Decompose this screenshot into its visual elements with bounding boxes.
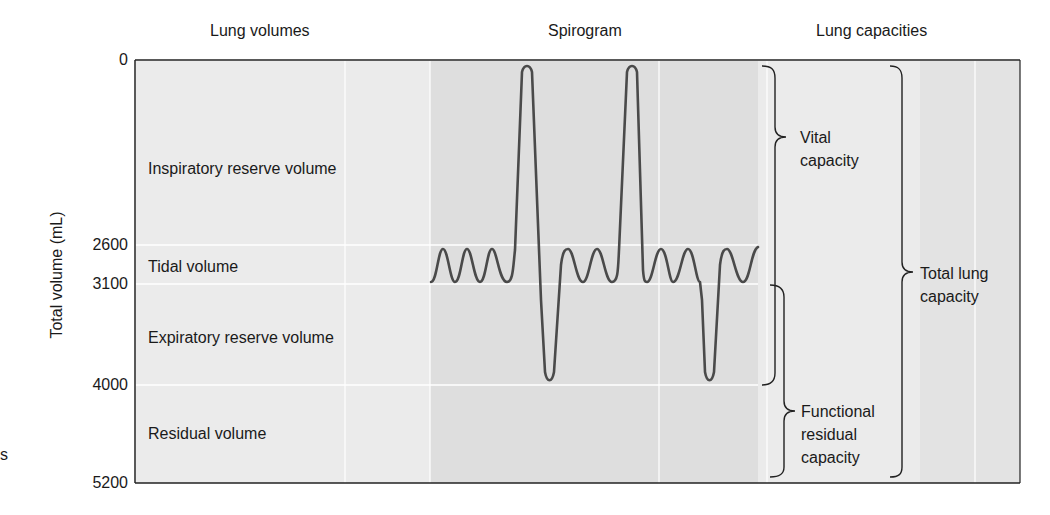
spirogram-panel (430, 61, 758, 483)
residual-volume-label: Residual volume (148, 425, 266, 443)
lung-capacities-title: Lung capacities (816, 22, 927, 40)
frc-line-2: residual (801, 423, 875, 446)
tlc-line-1: Total lung (920, 262, 989, 285)
vital-capacity-label: Vital capacity (800, 126, 859, 172)
vital-capacity-line-1: Vital (800, 126, 859, 149)
tick-4000: 4000 (68, 376, 128, 394)
y-axis-label: Total volume (mL) (48, 211, 66, 338)
tick-5200: 5200 (68, 474, 128, 492)
irv-label: Inspiratory reserve volume (148, 160, 337, 178)
tick-3100: 3100 (68, 275, 128, 293)
frc-line-3: capacity (801, 446, 875, 469)
erv-label: Expiratory reserve volume (148, 329, 334, 347)
tidal-volume-label: Tidal volume (148, 258, 238, 276)
tick-0: 0 (68, 51, 128, 69)
spirogram-title: Spirogram (548, 22, 622, 40)
frc-label: Functional residual capacity (801, 400, 875, 469)
tick-2600: 2600 (68, 236, 128, 254)
total-lung-capacity-label: Total lung capacity (920, 262, 989, 308)
cropped-text-fragment: s (0, 446, 8, 464)
tlc-line-2: capacity (920, 285, 989, 308)
vital-capacity-line-2: capacity (800, 149, 859, 172)
frc-line-1: Functional (801, 400, 875, 423)
lung-volumes-title: Lung volumes (210, 22, 310, 40)
